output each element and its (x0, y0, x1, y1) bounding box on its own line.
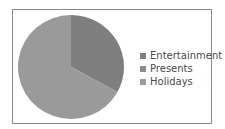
legend-item-holidays: Holidays (140, 75, 222, 88)
legend-label: Entertainment (150, 50, 222, 61)
legend-swatch-icon (140, 79, 146, 85)
legend-item-presents: Presents (140, 62, 222, 75)
legend-label: Presents (150, 63, 193, 74)
legend: Entertainment Presents Holidays (140, 49, 222, 88)
legend-label: Holidays (150, 76, 193, 87)
legend-swatch-icon (140, 53, 146, 59)
legend-item-entertainment: Entertainment (140, 49, 222, 62)
pie-chart (17, 14, 125, 120)
legend-swatch-icon (140, 66, 146, 72)
